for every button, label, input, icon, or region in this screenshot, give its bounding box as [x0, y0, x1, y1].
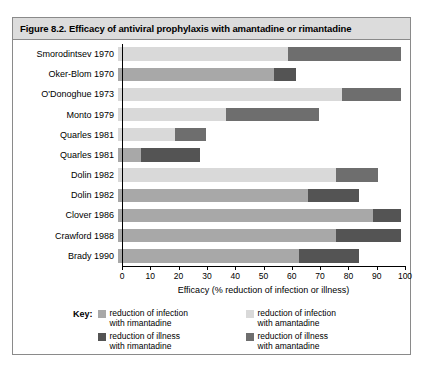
bar-row: Smorodintsev 1970	[13, 44, 412, 64]
legend-column-left: reduction of infectionwith rimantadinere…	[98, 308, 246, 354]
bar-segment-illness	[175, 128, 206, 141]
bar-segment-infection	[118, 88, 342, 101]
bar-row: Clover 1986	[13, 205, 412, 225]
bar-segment-infection	[118, 168, 336, 181]
x-axis-tick	[264, 266, 265, 270]
legend-swatch-icon	[246, 333, 254, 341]
bar-row-label: Monto 1979	[13, 110, 118, 120]
bar-row: Quarles 1981	[13, 145, 412, 165]
bar-row: O'Donoghue 1973	[13, 84, 412, 104]
bar-track	[118, 165, 401, 185]
x-axis-tick-label: 80	[344, 271, 353, 281]
bar-segment-infection	[118, 189, 308, 202]
x-axis-tick	[179, 266, 180, 270]
x-axis-label: Efficacy (% reduction of infection or il…	[122, 285, 405, 295]
bar-row-label: Clover 1986	[13, 210, 118, 220]
bar-row-label: Dolin 1982	[13, 190, 118, 200]
bar-segment-illness	[336, 168, 378, 181]
x-axis-tick-label: 30	[202, 271, 211, 281]
bar-segment-infection	[118, 209, 373, 222]
bar-row: Quarles 1981	[13, 125, 412, 145]
bar-segment-infection	[118, 68, 274, 81]
x-axis-tick-label: 60	[287, 271, 296, 281]
bar-chart: Smorodintsev 1970Oker-Blom 1970O'Donoghu…	[13, 44, 412, 302]
bar-track	[118, 125, 401, 145]
bar-segment-illness	[336, 229, 401, 242]
bar-row-label: Crawford 1988	[13, 231, 118, 241]
bar-track	[118, 44, 401, 64]
legend-entry-label: reduction of infectionwith rimantadine	[110, 308, 188, 328]
bar-segment-illness	[226, 108, 319, 121]
legend-label-line1: reduction of illness	[110, 331, 180, 341]
x-axis-tick-label: 40	[230, 271, 239, 281]
legend-label-line1: reduction of illness	[258, 331, 328, 341]
bar-track	[118, 246, 401, 266]
figure-title: Figure 8.2. Efficacy of antiviral prophy…	[13, 23, 351, 34]
bar-row: Brady 1990	[13, 246, 412, 266]
x-axis-tick-labels: 0102030405060708090100	[122, 271, 405, 285]
legend-column-right: reduction of infectionwith amantadinered…	[246, 308, 394, 354]
legend-swatch-icon	[98, 310, 106, 318]
bar-row-label: Quarles 1981	[13, 130, 118, 140]
bar-segment-infection	[118, 128, 175, 141]
bar-row-label: Brady 1990	[13, 251, 118, 261]
bar-track	[118, 205, 401, 225]
chart-legend: Key: reduction of infectionwith rimantad…	[13, 308, 412, 354]
bar-segment-illness	[288, 47, 401, 60]
legend-label-line1: reduction of infection	[110, 308, 188, 318]
x-axis-tick-label: 90	[372, 271, 381, 281]
bar-row-label: Smorodintsev 1970	[13, 49, 118, 59]
bar-track	[118, 185, 401, 205]
legend-entry: reduction of infectionwith rimantadine	[98, 308, 246, 328]
bar-row: Dolin 1982	[13, 165, 412, 185]
legend-label-line2: with amantadine	[258, 341, 328, 351]
legend-entry: reduction of illnesswith amantadine	[246, 331, 394, 351]
bar-row-label: Quarles 1981	[13, 150, 118, 160]
bar-segment-infection	[118, 108, 226, 121]
bar-track	[118, 84, 401, 104]
bar-segment-illness	[308, 189, 359, 202]
legend-label-line1: reduction of infection	[258, 308, 336, 318]
bar-segment-illness	[299, 249, 358, 262]
legend-entry-label: reduction of illnesswith amantadine	[258, 331, 328, 351]
bar-segment-illness	[342, 88, 401, 101]
bar-row: Monto 1979	[13, 105, 412, 125]
bar-track	[118, 105, 401, 125]
x-axis-tick	[348, 266, 349, 270]
bar-segment-illness	[141, 148, 200, 161]
x-axis-tick-label: 10	[146, 271, 155, 281]
bar-row: Dolin 1982	[13, 185, 412, 205]
y-axis-line	[122, 44, 123, 266]
bar-segment-infection	[118, 229, 336, 242]
bar-segment-infection	[118, 249, 299, 262]
x-axis-tick	[122, 266, 123, 270]
x-axis-tick	[377, 266, 378, 270]
legend-swatch-icon	[246, 310, 254, 318]
plot-area: Smorodintsev 1970Oker-Blom 1970O'Donoghu…	[13, 40, 410, 354]
x-axis-tick	[405, 266, 406, 270]
legend-swatch-icon	[98, 333, 106, 341]
legend-entry-label: reduction of illnesswith rimantadine	[110, 331, 180, 351]
legend-label-line2: with amantadine	[258, 318, 336, 328]
legend-entry: reduction of infectionwith amantadine	[246, 308, 394, 328]
bar-track	[118, 64, 401, 84]
x-axis-tick-label: 70	[315, 271, 324, 281]
x-axis-tick-label: 50	[259, 271, 268, 281]
bar-track	[118, 226, 401, 246]
bar-segment-illness	[373, 209, 401, 222]
bar-row: Oker-Blom 1970	[13, 64, 412, 84]
bar-row-label: Dolin 1982	[13, 170, 118, 180]
bar-segment-infection	[118, 47, 288, 60]
x-axis-tick	[320, 266, 321, 270]
legend-key-label: Key:	[73, 308, 93, 354]
x-axis-tick	[207, 266, 208, 270]
x-axis-tick	[292, 266, 293, 270]
figure-header: Figure 8.2. Efficacy of antiviral prophy…	[13, 18, 410, 40]
legend-entry-label: reduction of infectionwith amantadine	[258, 308, 336, 328]
bar-segment-illness	[274, 68, 297, 81]
x-axis-tick-label: 0	[120, 271, 125, 281]
figure-container: Figure 8.2. Efficacy of antiviral prophy…	[12, 17, 411, 355]
legend-label-line2: with rimantadine	[110, 318, 188, 328]
legend-label-line2: with rimantadine	[110, 341, 180, 351]
legend-entry: reduction of illnesswith rimantadine	[98, 331, 246, 351]
